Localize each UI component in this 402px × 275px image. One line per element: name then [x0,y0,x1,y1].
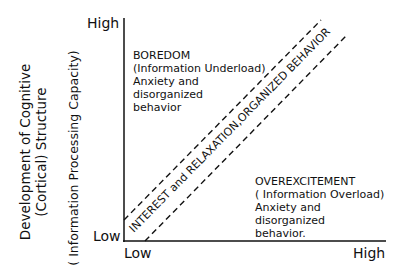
y-tick-high: High [87,15,119,31]
boredom-title: BOREDOM [133,49,266,62]
y-axis-title-line1: Development of Cognitive [17,64,33,240]
y-tick-low: Low [93,228,121,244]
overexcitement-region-label: OVEREXCITEMENT ( Information Overload) A… [255,175,384,240]
y-axis-title: Development of Cognitive (Cortical) Stru… [17,64,49,240]
overexcitement-line4: disorganized [255,214,384,227]
cognitive-load-diagram: Development of Cognitive (Cortical) Stru… [0,0,402,275]
x-tick-high: High [353,245,385,261]
boredom-line4: disorganized [133,88,266,101]
overexcitement-title: OVEREXCITEMENT [255,175,384,188]
y-axis-title-line2: (Cortical) Structure [33,64,49,240]
x-tick-low: Low [124,245,152,261]
overexcitement-line5: behavior. [255,227,384,240]
boredom-line2: (Information Underload) [133,62,266,75]
overexcitement-line3: Anxiety and [255,201,384,214]
boredom-line3: Anxiety and [133,75,266,88]
overexcitement-line2: ( Information Overload) [255,188,384,201]
y-axis-subtitle: ( Information Processing Capacity) [66,50,81,265]
